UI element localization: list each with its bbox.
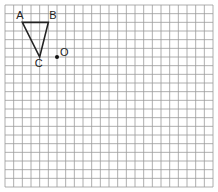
vertex-label-b: B <box>49 9 56 21</box>
grid-lines <box>5 5 213 187</box>
vertex-label-c: C <box>35 57 43 69</box>
grid-canvas: A B C O <box>0 0 218 192</box>
point-label-o: O <box>60 46 69 58</box>
point-o-dot <box>55 55 59 59</box>
vertex-label-a: A <box>16 9 24 21</box>
grid-diagram: A B C O <box>0 0 218 192</box>
